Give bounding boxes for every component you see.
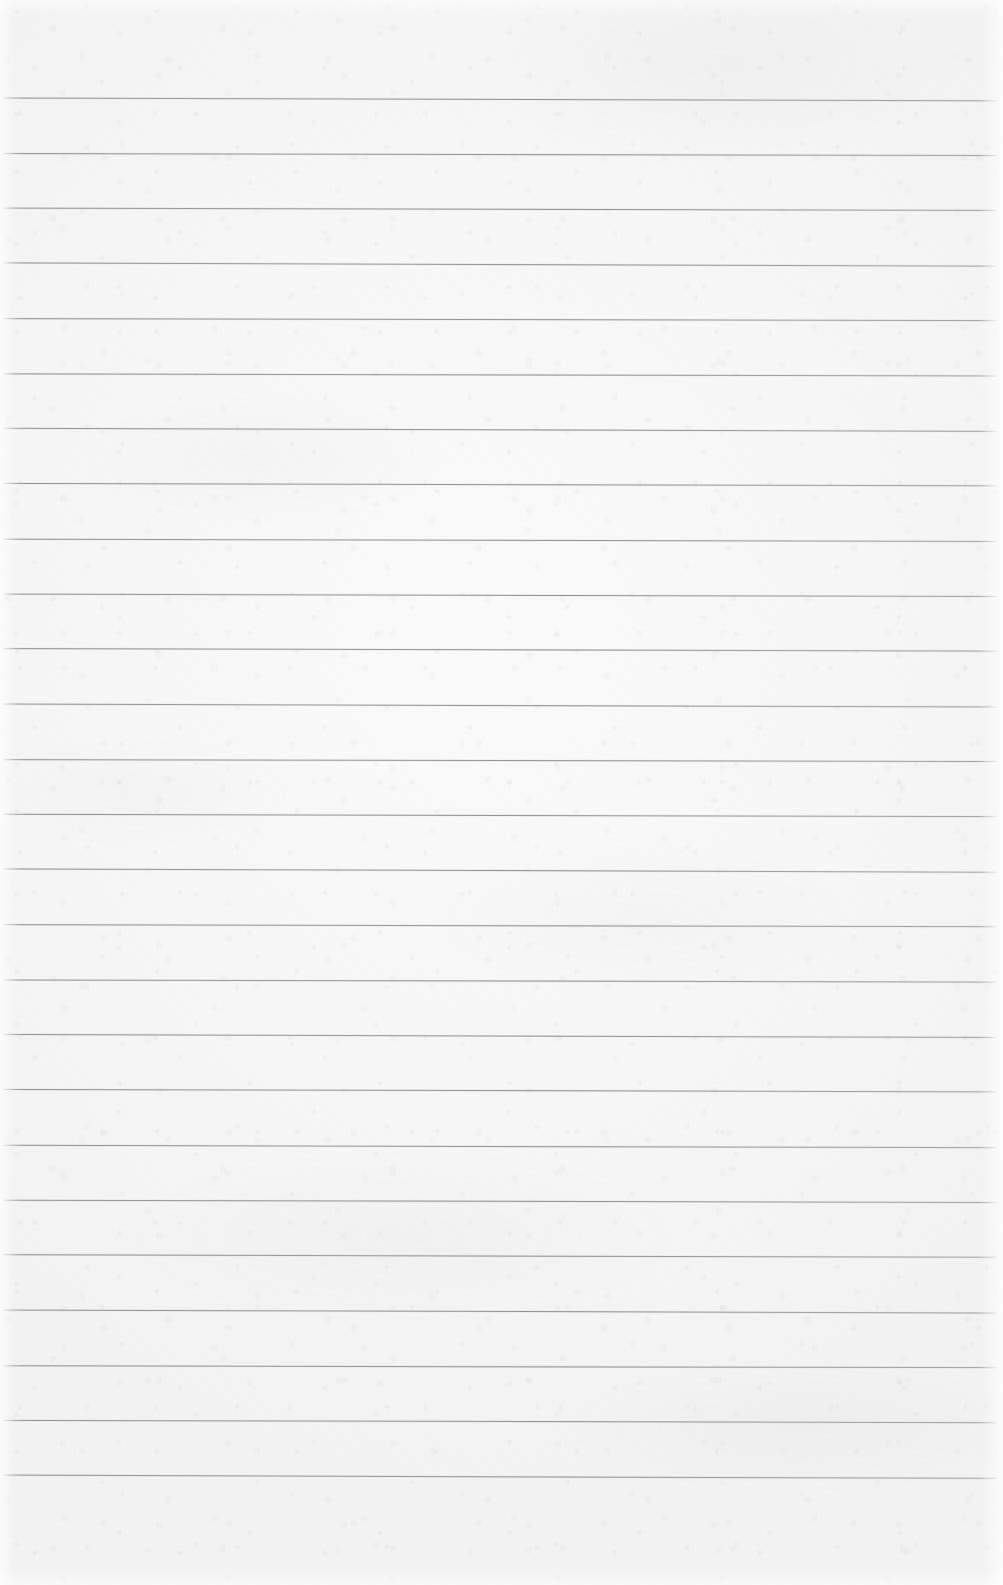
paper-edge-vignette bbox=[0, 0, 1003, 1585]
scanned-paper-page bbox=[0, 0, 1003, 1585]
